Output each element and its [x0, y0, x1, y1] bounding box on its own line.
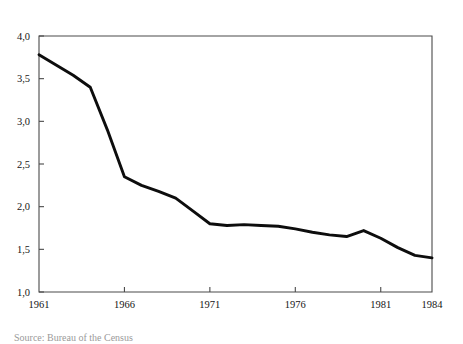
x-tick-label: 1976 — [285, 299, 306, 310]
data-series-group — [39, 55, 432, 258]
axis-frame — [39, 36, 432, 292]
data-line-series-1 — [39, 55, 432, 258]
x-tick-label: 1984 — [422, 299, 444, 310]
y-tick-label: 2,5 — [17, 159, 30, 170]
x-tick-label: 1981 — [370, 299, 391, 310]
y-tick-label: 1,5 — [17, 244, 30, 255]
x-tick-label: 1971 — [199, 299, 220, 310]
y-tick-label: 3,5 — [17, 73, 30, 84]
line-chart: 1,01,52,02,53,03,54,0 196119661971197619… — [0, 0, 463, 344]
y-axis-ticks: 1,01,52,02,53,03,54,0 — [17, 31, 44, 298]
y-tick-label: 4,0 — [17, 31, 30, 42]
y-tick-label: 3,0 — [17, 116, 30, 127]
y-tick-label: 2,0 — [17, 201, 30, 212]
x-axis-ticks: 196119661971197619811984 — [29, 287, 444, 310]
x-tick-label: 1961 — [29, 299, 50, 310]
plot-frame — [39, 36, 432, 292]
figure-caption: Source: Bureau of the Census — [14, 331, 454, 344]
figure-container: 1,01,52,02,53,03,54,0 196119661971197619… — [0, 0, 463, 344]
x-tick-label: 1966 — [114, 299, 135, 310]
y-tick-label: 1,0 — [17, 287, 30, 298]
